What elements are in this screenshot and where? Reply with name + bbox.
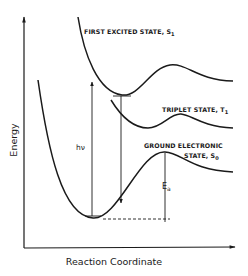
t1-label: TRIPLET STATE, T1 [162,106,229,115]
axes [24,17,235,248]
t1-curve [111,100,233,128]
s0-label-line1: GROUND ELECTRONIC [144,142,223,149]
s1-label: FIRST EXCITED STATE, S1 [84,28,175,37]
x-axis-label: Reaction Coordinate [66,256,163,267]
x-axis [24,247,235,248]
activation-energy-label: Ea [162,182,171,192]
s0-curve [38,80,233,218]
y-axis-label: Energy [8,123,19,157]
s0-label-line2: STATE, S0 [184,152,219,161]
energy-diagram: Energy Reaction Coordinate hν Ea FIRST E… [0,0,248,276]
excitation-label: hν [76,143,85,152]
